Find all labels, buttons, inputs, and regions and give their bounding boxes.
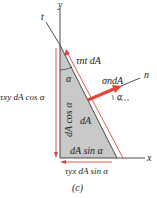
sigma-n-label: σndA: [102, 76, 123, 86]
stress-element-figure: y t n x τnt dA σndA α α dA dA cos α dA s…: [0, 0, 157, 198]
vertical-side-label: dA cos α: [64, 102, 74, 137]
t-axis-label: t: [41, 12, 44, 22]
x-axis-label: x: [147, 153, 151, 163]
figure-caption: (c): [72, 182, 83, 193]
alpha-top-label: α: [66, 74, 71, 84]
dA-label: dA: [80, 116, 91, 126]
alpha-right-label: α: [117, 92, 122, 102]
tau-yx-label: τyx dA sin α: [65, 167, 108, 176]
tau-xy-arrowhead: [54, 152, 58, 158]
bottom-side-label: dA sin α: [70, 146, 103, 156]
n-axis-label: n: [144, 70, 149, 80]
alpha-arc-right: [112, 95, 113, 100]
sigma-n-arrow: [88, 88, 116, 100]
tau-nt-arrowhead: [64, 49, 70, 56]
t-axis: [46, 22, 60, 45]
tau-yx-arrowhead: [60, 160, 66, 164]
tau-xy-label: τxy dA cos α: [0, 93, 45, 102]
tau-nt-label: τnt dA: [76, 56, 101, 66]
y-axis-label: y: [58, 0, 62, 10]
